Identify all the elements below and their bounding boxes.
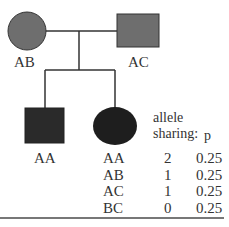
row-genotype: AB [103,167,124,183]
row-sharing: 0 [164,200,172,216]
son-genotype: AA [34,150,56,166]
daughter-circle [93,107,137,145]
row-p: 0.25 [196,150,222,166]
row-genotype: BC [103,200,123,216]
bottom-rule [0,217,224,219]
row-p: 0.25 [196,183,222,199]
son-square [25,108,64,143]
row-p: 0.25 [196,167,222,183]
row-sharing: 1 [164,183,172,199]
table-header-allele: allele [153,110,183,126]
table-header-sharing: sharing: [153,126,198,142]
row-sharing: 1 [164,167,172,183]
row-p: 0.25 [196,200,222,216]
row-genotype: AC [103,183,124,199]
table-header-p: p [204,128,211,144]
mother-circle [8,12,46,50]
father-square [117,14,159,47]
row-genotype: AA [103,150,125,166]
row-sharing: 2 [164,150,172,166]
father-genotype: AC [128,54,149,70]
mother-genotype: AB [14,54,35,70]
